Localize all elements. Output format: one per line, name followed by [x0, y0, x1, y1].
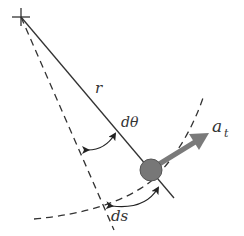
label-angle: dθ — [121, 114, 139, 130]
arc-length-ds — [112, 188, 158, 207]
angle-arc-dtheta — [88, 134, 115, 150]
label-accel: a — [212, 116, 222, 136]
label-accel-subscript: t — [224, 127, 229, 140]
dashed-reference-radius — [21, 17, 114, 230]
tangential-acceleration-arrow — [156, 133, 209, 166]
dashed-arc — [34, 98, 203, 219]
bob — [140, 159, 162, 181]
pendulum-diagram: r dθ ds a t — [0, 0, 244, 236]
label-radius: r — [95, 79, 103, 97]
label-arc-length: ds — [111, 207, 129, 225]
